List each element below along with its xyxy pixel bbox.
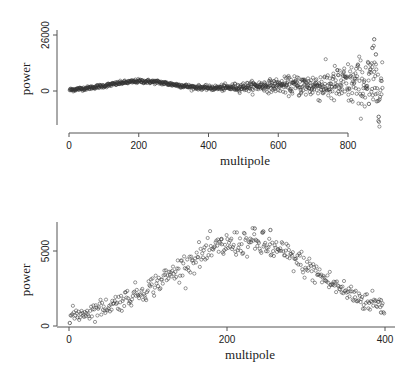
data-point-outlier bbox=[374, 53, 377, 56]
x-tick-label: 600 bbox=[270, 140, 287, 151]
data-point bbox=[284, 91, 287, 94]
data-point bbox=[275, 78, 278, 81]
data-point bbox=[201, 252, 204, 255]
data-point bbox=[375, 305, 378, 308]
top-y-ticks: 026000 bbox=[40, 21, 57, 94]
data-point bbox=[359, 117, 362, 120]
data-point bbox=[291, 92, 294, 95]
data-point bbox=[354, 296, 357, 299]
data-point bbox=[132, 291, 135, 294]
x-tick-label: 800 bbox=[340, 140, 357, 151]
data-point bbox=[331, 90, 334, 93]
data-point bbox=[308, 257, 311, 260]
data-point bbox=[361, 71, 364, 74]
x-tick-label: 0 bbox=[66, 334, 72, 345]
data-point bbox=[209, 230, 212, 233]
bottom-data-points bbox=[68, 227, 386, 325]
data-point bbox=[93, 320, 96, 323]
data-point bbox=[134, 281, 137, 284]
data-point bbox=[358, 68, 361, 71]
data-point bbox=[176, 259, 179, 262]
data-point bbox=[225, 234, 228, 237]
data-point bbox=[301, 271, 304, 274]
data-point bbox=[355, 92, 358, 95]
data-point bbox=[378, 125, 381, 128]
data-point bbox=[351, 92, 354, 95]
data-point bbox=[99, 298, 102, 301]
data-point bbox=[275, 241, 278, 244]
data-point bbox=[372, 78, 375, 81]
data-point bbox=[256, 244, 259, 247]
data-point bbox=[195, 251, 198, 254]
top-scatter-panel: 0200400600800 026000 multipole power bbox=[18, 21, 384, 168]
data-point bbox=[104, 298, 107, 301]
data-point bbox=[153, 286, 156, 289]
x-tick-label: 200 bbox=[130, 140, 147, 151]
data-point bbox=[326, 274, 329, 277]
data-point bbox=[381, 61, 384, 64]
data-point bbox=[206, 236, 209, 239]
data-point bbox=[80, 309, 83, 312]
data-point bbox=[367, 79, 370, 82]
x-tick-label: 200 bbox=[219, 334, 236, 345]
data-point bbox=[152, 291, 155, 294]
data-point bbox=[207, 254, 210, 257]
data-point bbox=[235, 253, 238, 256]
data-point bbox=[381, 302, 384, 305]
data-point bbox=[320, 281, 323, 284]
data-point-outlier bbox=[377, 115, 380, 118]
data-point bbox=[363, 105, 366, 108]
data-point bbox=[333, 64, 336, 67]
data-point bbox=[348, 295, 351, 298]
data-point bbox=[199, 247, 202, 250]
data-point bbox=[131, 294, 134, 297]
data-point bbox=[226, 238, 229, 241]
data-point bbox=[350, 285, 353, 288]
data-point bbox=[300, 250, 303, 253]
data-point bbox=[178, 281, 181, 284]
y-tick-label: 0 bbox=[40, 88, 51, 94]
data-point bbox=[242, 251, 245, 254]
data-point bbox=[357, 88, 360, 91]
data-point bbox=[327, 94, 330, 97]
data-point bbox=[114, 295, 117, 298]
data-point bbox=[305, 260, 308, 263]
data-point bbox=[359, 59, 362, 62]
data-point bbox=[349, 70, 352, 73]
data-point bbox=[317, 92, 320, 95]
data-point bbox=[306, 77, 309, 80]
data-point bbox=[243, 232, 246, 235]
data-point bbox=[246, 245, 249, 248]
data-point bbox=[319, 76, 322, 79]
data-point bbox=[304, 93, 307, 96]
chart-figure: 0200400600800 026000 multipole power 020… bbox=[0, 0, 418, 380]
data-point bbox=[89, 309, 92, 312]
data-point bbox=[102, 305, 105, 308]
top-y-axis-title: power bbox=[18, 62, 33, 95]
top-x-ticks: 0200400600800 bbox=[66, 133, 357, 151]
data-point bbox=[330, 97, 333, 100]
data-point bbox=[342, 279, 345, 282]
data-point bbox=[309, 262, 312, 265]
data-point bbox=[313, 281, 316, 284]
data-point bbox=[334, 79, 337, 82]
data-point bbox=[246, 255, 249, 258]
data-point bbox=[264, 241, 267, 244]
data-point bbox=[212, 248, 215, 251]
x-tick-label: 400 bbox=[200, 140, 217, 151]
data-point bbox=[171, 265, 174, 268]
data-point bbox=[100, 313, 103, 316]
data-point bbox=[123, 304, 126, 307]
data-point bbox=[202, 249, 205, 252]
data-point bbox=[350, 66, 353, 69]
data-point bbox=[333, 99, 336, 102]
data-point bbox=[302, 256, 305, 259]
data-point bbox=[310, 270, 313, 273]
data-point bbox=[360, 102, 363, 105]
data-point bbox=[183, 255, 186, 258]
data-point-outlier bbox=[269, 228, 272, 231]
y-tick-label: 0 bbox=[40, 323, 51, 329]
data-point bbox=[159, 287, 162, 290]
data-point bbox=[324, 58, 327, 61]
data-point bbox=[135, 288, 138, 291]
